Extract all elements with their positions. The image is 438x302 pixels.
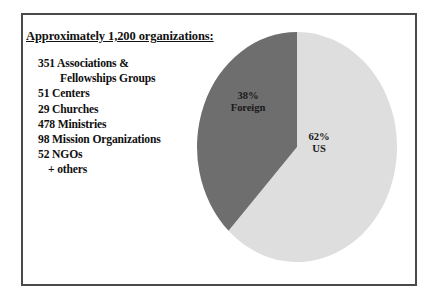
- pie-slice-percent-us: 62%: [294, 131, 344, 143]
- pie-slice-name-us: US: [294, 143, 344, 155]
- pie-slice-label-foreign: 38% Foreign: [219, 90, 277, 115]
- list-item: 351 Associations &: [38, 56, 216, 71]
- list-item: 98 Mission Organizations: [38, 132, 216, 147]
- list-item: 51 Centers: [38, 86, 216, 101]
- organization-breakdown-list: 351 Associations & Fellowships Groups 51…: [38, 56, 216, 178]
- organizations-text-block: Approximately 1,200 organizations: 351 A…: [26, 29, 216, 178]
- list-item: 52 NGOs: [38, 147, 216, 162]
- pie-chart: 38% Foreign 62% US: [193, 26, 405, 270]
- list-item: + others: [38, 162, 216, 177]
- list-item: Fellowships Groups: [38, 71, 216, 86]
- page-title: Approximately 1,200 organizations:: [26, 29, 216, 43]
- list-item: 29 Churches: [38, 102, 216, 117]
- pie-slice-percent-foreign: 38%: [219, 90, 277, 102]
- slide-canvas: Approximately 1,200 organizations: 351 A…: [0, 0, 438, 302]
- pie-slice-name-foreign: Foreign: [219, 102, 277, 114]
- list-item: 478 Ministries: [38, 117, 216, 132]
- pie-slice-label-us: 62% US: [294, 131, 344, 156]
